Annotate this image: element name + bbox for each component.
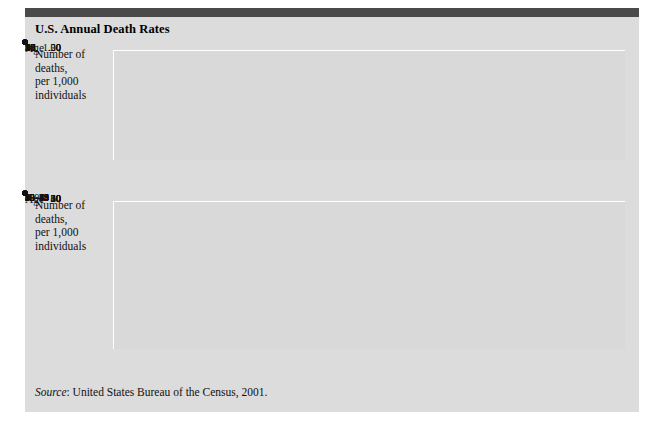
series-child-death-rates	[25, 42, 639, 182]
series-adult-death-rates	[25, 193, 639, 383]
x-tick-label: 19	[25, 42, 36, 53]
figure-title: U.S. Annual Death Rates	[35, 22, 170, 37]
chart-adult-death-rates: Number of deaths, per 1,000 individuals …	[25, 193, 639, 383]
accent-bar	[25, 8, 639, 17]
source-prefix: Source	[35, 386, 67, 398]
x-tick-label: 80	[25, 193, 35, 203]
source-note: Source: United States Bureau of the Cens…	[35, 386, 267, 398]
chart-child-death-rates: Number of deaths, per 1,000 individuals …	[25, 42, 639, 182]
source-text: : United States Bureau of the Census, 20…	[67, 386, 268, 398]
figure-panel: U.S. Annual Death Rates Number of deaths…	[25, 8, 639, 412]
